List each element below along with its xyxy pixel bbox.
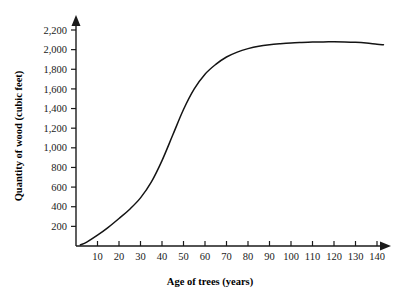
x-tick-label: 90 — [264, 251, 275, 262]
x-tick-label: 40 — [157, 251, 168, 262]
x-axis-group — [76, 242, 391, 251]
x-tick-label: 140 — [369, 251, 385, 262]
y-tick-label: 1,200 — [43, 123, 67, 134]
y-tick-label: 400 — [51, 201, 67, 212]
y-tick-label: 2,200 — [43, 25, 67, 36]
x-tick-label: 130 — [348, 251, 364, 262]
y-tick-label: 1,600 — [43, 84, 67, 95]
y-tick-label: 2,000 — [43, 44, 67, 55]
x-tick-label: 50 — [178, 251, 189, 262]
y-axis-title: Quantity of wood (cubic feet) — [13, 70, 25, 201]
y-tick-group: 2004006008001,0001,2001,4001,6001,8002,0… — [43, 25, 76, 232]
wood-quantity-chart: 2004006008001,0001,2001,4001,6001,8002,0… — [0, 0, 402, 296]
x-tick-label: 110 — [305, 251, 320, 262]
y-tick-label: 1,000 — [43, 142, 67, 153]
x-tick-label: 10 — [92, 251, 103, 262]
y-axis-arrow-icon — [72, 15, 81, 26]
x-tick-label: 20 — [114, 251, 125, 262]
x-tick-label: 100 — [283, 251, 299, 262]
y-tick-label: 200 — [51, 221, 67, 232]
chart-canvas: 2004006008001,0001,2001,4001,6001,8002,0… — [0, 0, 402, 296]
x-tick-label: 120 — [326, 251, 342, 262]
x-tick-label: 80 — [243, 251, 254, 262]
y-tick-label: 1,800 — [43, 64, 67, 75]
wood-growth-curve — [80, 42, 383, 245]
x-tick-label: 30 — [135, 251, 146, 262]
x-tick-group: 102030405060708090100110120130140 — [92, 241, 385, 262]
x-axis-title: Age of trees (years) — [167, 276, 254, 288]
y-tick-label: 1,400 — [43, 103, 67, 114]
x-tick-label: 70 — [221, 251, 232, 262]
y-tick-label: 800 — [51, 162, 67, 173]
x-axis-arrow-icon — [380, 242, 391, 251]
y-tick-label: 600 — [51, 182, 67, 193]
x-tick-label: 60 — [200, 251, 211, 262]
